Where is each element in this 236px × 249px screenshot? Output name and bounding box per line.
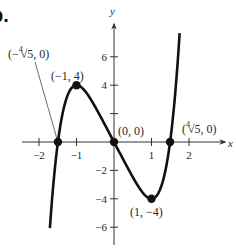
x-tick-label: 1: [149, 149, 155, 161]
key-point: [54, 138, 62, 146]
function-graph: b. x y −2−112 64−2−4−6 (−4√5, 0) (−1, 4)…: [0, 0, 236, 249]
label-pos-root: (4√5, 0): [182, 120, 217, 136]
part-label: b.: [0, 4, 9, 26]
key-point: [147, 195, 155, 203]
x-tick-label: −1: [71, 149, 83, 161]
x-axis-label: x: [227, 137, 233, 149]
y-axis-label: y: [109, 5, 115, 17]
y-tick-label: −2: [95, 164, 107, 176]
y-tick-label: 6: [102, 51, 108, 63]
label-local-min: (1, −4): [130, 205, 163, 219]
label-origin: (0, 0): [118, 124, 144, 138]
x-tick-label: 2: [186, 149, 192, 161]
key-point: [166, 138, 174, 146]
y-tick-label: 4: [102, 79, 108, 91]
x-tick-label: −2: [33, 149, 45, 161]
label-neg-root: (−4√5, 0): [8, 45, 49, 61]
y-tick-label: −6: [95, 221, 107, 233]
label-local-max: (−1, 4): [51, 69, 84, 83]
key-point: [110, 138, 118, 146]
y-tick-label: −4: [95, 193, 107, 205]
